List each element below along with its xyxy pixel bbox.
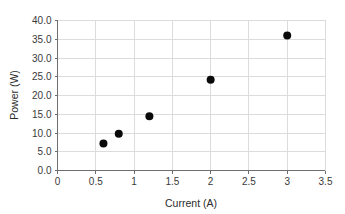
y-tick-label: 30.0 [32,53,52,64]
x-tick-label: 2.5 [242,176,256,187]
chart-figure: 00.511.522.533.5 0.05.010.015.020.025.03… [0,0,345,214]
data-points-group [99,32,291,148]
y-tick-label: 40.0 [32,15,52,26]
y-tick-labels-group: 0.05.010.015.020.025.030.035.040.0 [32,15,52,176]
y-tick-label: 5.0 [38,146,52,157]
y-tick-label: 20.0 [32,90,52,101]
y-tick-label: 15.0 [32,109,52,120]
data-point [145,112,153,120]
data-point [115,130,123,138]
x-tick-labels-group: 00.511.522.533.5 [55,176,333,187]
scatter-plot: 00.511.522.533.5 0.05.010.015.020.025.03… [0,0,345,214]
data-point [283,32,291,40]
y-axis-title: Power (W) [8,70,20,120]
x-axis-title: Current (A) [165,197,217,209]
y-tick-label: 25.0 [32,71,52,82]
data-point [99,140,107,148]
x-tick-label: 3 [284,176,290,187]
y-tick-label: 0.0 [38,165,52,176]
y-tick-label: 35.0 [32,34,52,45]
x-tick-label: 2 [208,176,214,187]
x-tick-label: 1 [131,176,137,187]
x-tick-label: 3.5 [319,176,333,187]
x-tick-label: 1.5 [165,176,179,187]
x-tick-label: 0.5 [89,176,103,187]
x-tick-label: 0 [55,176,61,187]
gridlines-group [58,21,326,171]
y-tick-label: 10.0 [32,128,52,139]
data-point [207,76,215,84]
